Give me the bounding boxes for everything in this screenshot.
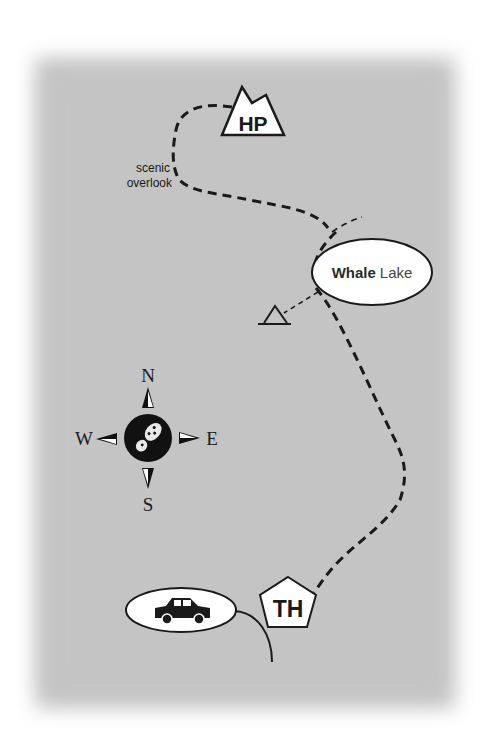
compass-label-east: E (206, 428, 218, 449)
compass-label-west: W (75, 428, 93, 449)
lake-label-bold: Whale (332, 264, 376, 281)
scenic-overlook-line2: overlook (127, 176, 173, 190)
compass-label-north: N (141, 365, 155, 386)
whale-lake-marker[interactable]: WhaleLake (312, 239, 432, 305)
lake-label: WhaleLake (332, 264, 413, 281)
trail-map: HP scenic overlook WhaleLake (0, 0, 479, 729)
map-background (35, 58, 455, 708)
trailhead-label: TH (273, 596, 304, 622)
scenic-overlook-line1: scenic (136, 161, 170, 175)
lake-label-regular: Lake (380, 264, 413, 281)
compass-label-south: S (143, 494, 154, 515)
parking-marker[interactable] (126, 588, 236, 632)
high-point-label: HP (238, 112, 267, 135)
